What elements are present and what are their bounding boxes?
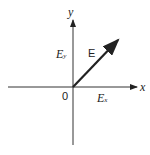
y-axis-label: y [68, 6, 73, 18]
vector-e-arrow [73, 40, 118, 87]
vector-label: E [88, 48, 95, 59]
x-axis-label: x [140, 81, 145, 93]
ey-component-label: Ey [56, 48, 66, 60]
ex-component-label: Ex [97, 92, 107, 104]
origin-label: 0 [62, 91, 68, 102]
vector-diagram [0, 0, 150, 155]
